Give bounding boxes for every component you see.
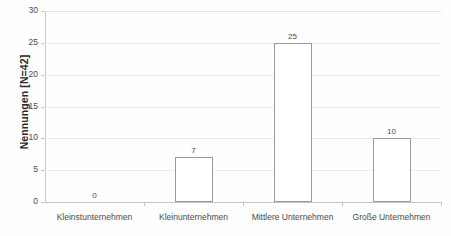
- bar-slot: 0: [45, 11, 144, 202]
- y-tick-label: 5: [8, 164, 38, 174]
- bar-slot: 10: [342, 11, 441, 202]
- bar-series: 072510: [45, 11, 441, 202]
- y-tick-mark: [41, 43, 45, 44]
- plot-area: 072510: [45, 11, 441, 202]
- x-tick-mark: [144, 202, 145, 206]
- y-tick-label: 20: [8, 69, 38, 79]
- bar-slot: 7: [144, 11, 243, 202]
- y-tick-label: 25: [8, 37, 38, 47]
- bar[interactable]: [274, 43, 312, 202]
- y-tick-mark: [41, 138, 45, 139]
- y-tick-label: 0: [8, 196, 38, 206]
- y-tick-mark: [41, 202, 45, 203]
- bar-value-label: 0: [92, 191, 96, 200]
- bar-value-label: 7: [191, 146, 195, 155]
- bar-slot: 25: [243, 11, 342, 202]
- y-tick-label: 10: [8, 132, 38, 142]
- bar[interactable]: [175, 157, 213, 202]
- x-tick-mark: [243, 202, 244, 206]
- x-tick-label: Große Unternehmen: [353, 212, 431, 222]
- x-tick-label: Kleinunternehmen: [159, 212, 228, 222]
- y-tick-label: 15: [8, 101, 38, 111]
- bar-value-label: 10: [387, 127, 396, 136]
- y-tick-mark: [41, 75, 45, 76]
- y-tick-mark: [41, 107, 45, 108]
- bar[interactable]: [373, 138, 411, 202]
- x-tick-label: Kleinstunternehmen: [57, 212, 133, 222]
- x-tick-label: Mittlere Unternehmen: [252, 212, 334, 222]
- bar-chart: Nennungen [N=42] 072510 051015202530 Kle…: [0, 0, 451, 236]
- x-tick-mark: [342, 202, 343, 206]
- y-tick-label: 30: [8, 5, 38, 15]
- y-tick-mark: [41, 11, 45, 12]
- x-tick-mark: [441, 202, 442, 206]
- y-tick-mark: [41, 170, 45, 171]
- bar-value-label: 25: [288, 32, 297, 41]
